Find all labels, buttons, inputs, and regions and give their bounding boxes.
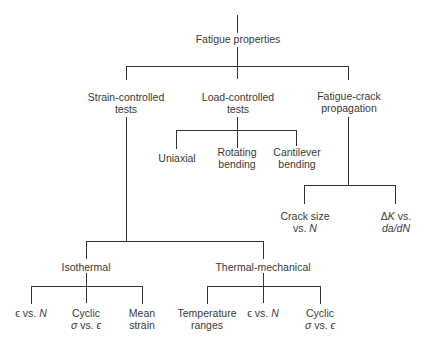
node-label: ϵ	[330, 319, 335, 331]
node-label: vs.	[20, 307, 39, 319]
node-rotating-bending: Rotating bending	[217, 146, 256, 170]
node-tm-cyclic-sigma-vs-epsilon: Cyclic σ vs. ϵ	[305, 307, 335, 331]
node-load-controlled-tests: Load-controlled tests	[202, 91, 274, 115]
node-strain-controlled-tests: Strain-controlled tests	[88, 91, 164, 115]
node-label: Fatigue-crack	[317, 90, 381, 102]
node-label: K	[388, 210, 395, 222]
node-label: N	[271, 307, 279, 319]
node-fatigue-properties: Fatigue properties	[196, 33, 281, 45]
node-label: bending	[217, 158, 256, 170]
node-tm-epsilon-vs-n: ϵ vs. N	[247, 307, 279, 319]
node-label: Cantilever	[273, 146, 320, 158]
node-label: Crack size	[280, 210, 329, 222]
node-label: Strain-controlled	[88, 91, 164, 103]
node-label: Fatigue properties	[196, 33, 281, 45]
node-label: Temperature	[178, 307, 237, 319]
node-label: N	[39, 307, 47, 319]
node-label: tests	[88, 103, 164, 115]
node-label: vs.	[395, 210, 411, 222]
node-label: vs.	[311, 319, 330, 331]
node-iso-epsilon-vs-n: ϵ vs. N	[15, 307, 47, 319]
node-label: vs.	[293, 222, 309, 234]
node-cantilever-bending: Cantilever bending	[273, 146, 320, 170]
node-delta-k-vs-da-dn: ΔK vs. da/dN	[381, 210, 411, 234]
node-label: Cyclic	[71, 307, 101, 319]
node-label: Isothermal	[61, 261, 110, 273]
node-label: N	[309, 222, 317, 234]
node-fatigue-crack-propagation: Fatigue-crack propagation	[317, 90, 381, 114]
node-label: vs.	[77, 319, 96, 331]
node-tm-temperature-ranges: Temperature ranges	[178, 307, 237, 331]
node-label: Δ	[381, 210, 388, 222]
node-label: Mean	[129, 307, 155, 319]
node-label: vs.	[252, 307, 271, 319]
node-label: Thermal-mechanical	[215, 261, 310, 273]
node-label: Cyclic	[305, 307, 335, 319]
node-label: tests	[202, 103, 274, 115]
node-crack-size-vs-n: Crack size vs. N	[280, 210, 329, 234]
node-label: Uniaxial	[158, 152, 195, 164]
connector-lines	[0, 0, 425, 346]
node-label: Rotating	[217, 146, 256, 158]
node-label: Load-controlled	[202, 91, 274, 103]
node-label: ϵ	[96, 319, 101, 331]
node-thermal-mechanical: Thermal-mechanical	[215, 261, 310, 273]
node-label: da/dN	[382, 222, 410, 234]
node-label: propagation	[317, 102, 381, 114]
node-label: bending	[273, 158, 320, 170]
node-iso-cyclic-sigma-vs-epsilon: Cyclic σ vs. ϵ	[71, 307, 101, 331]
node-isothermal: Isothermal	[61, 261, 110, 273]
node-iso-mean-strain: Mean strain	[129, 307, 155, 331]
node-uniaxial: Uniaxial	[158, 152, 195, 164]
node-label: strain	[129, 319, 155, 331]
node-label: ranges	[178, 319, 237, 331]
